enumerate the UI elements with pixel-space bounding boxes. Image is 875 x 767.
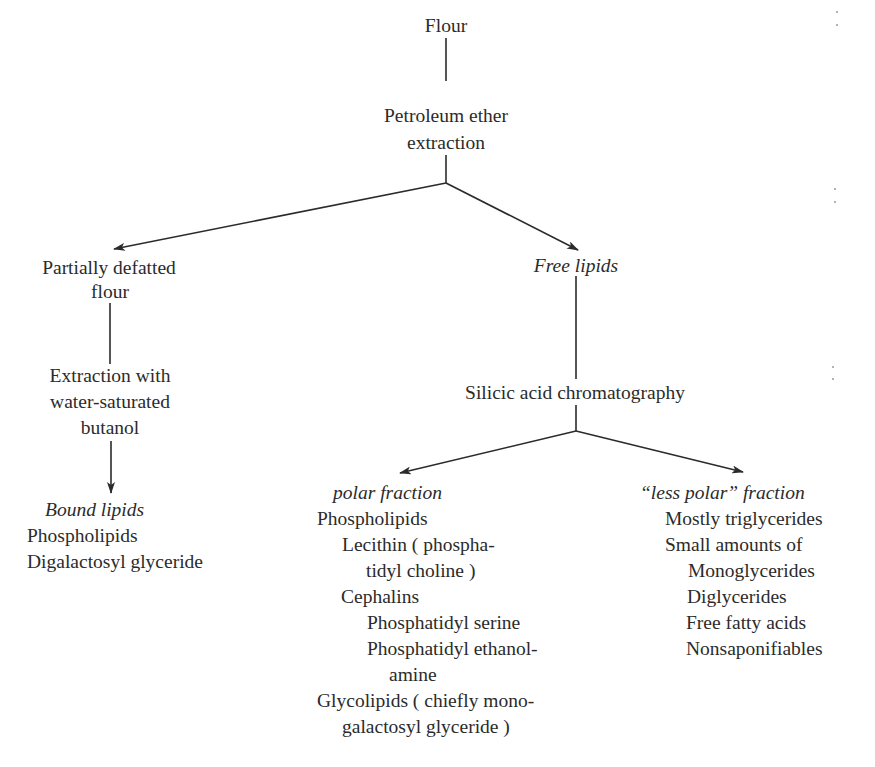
scan-artifact-dot <box>836 11 838 13</box>
polar-fraction-heading: polar fraction <box>317 480 538 506</box>
polar-item: amine <box>317 662 538 688</box>
bound-lipids-item: Digalactosyl glyceride <box>27 549 203 575</box>
polar-item: Phospholipids <box>317 506 538 532</box>
polar-item: Phosphatidyl serine <box>317 610 538 636</box>
arrow-to-defatted-flour <box>114 183 446 249</box>
polar-item: tidyl choline ) <box>317 558 538 584</box>
node-polar-fraction: polar fraction Phospholipids Lecithin ( … <box>317 480 538 740</box>
arrow-to-less-polar-fraction <box>576 431 743 472</box>
bound-lipids-item: Phospholipids <box>27 523 203 549</box>
node-petroleum-ether-line2: extraction <box>407 131 485 155</box>
scan-artifact-dot <box>836 24 838 26</box>
less-polar-item: Small amounts of <box>640 532 823 558</box>
polar-item: Glycolipids ( chiefly mono- <box>317 688 538 714</box>
less-polar-item: Diglycerides <box>640 584 823 610</box>
node-butanol-extraction-line3: butanol <box>81 416 140 440</box>
node-petroleum-ether-line1: Petroleum ether <box>384 104 508 128</box>
node-butanol-extraction-line1: Extraction with <box>50 364 171 388</box>
node-silicic-acid-chromatography: Silicic acid chromatography <box>465 381 685 405</box>
polar-item: galactosyl glyceride ) <box>317 714 538 740</box>
node-bound-lipids: Bound lipids Phospholipids Digalactosyl … <box>27 497 203 575</box>
node-less-polar-fraction: “less polar” fraction Mostly triglycerid… <box>640 480 823 662</box>
less-polar-item: Free fatty acids <box>640 610 823 636</box>
polar-item: Phosphatidyl ethanol- <box>317 636 538 662</box>
node-butanol-extraction-line2: water-saturated <box>50 390 170 414</box>
node-defatted-flour-line2: flour <box>91 280 129 304</box>
scan-artifact-dot <box>834 201 836 203</box>
arrow-to-polar-fraction <box>400 431 576 473</box>
less-polar-item: Monoglycerides <box>640 558 823 584</box>
arrow-to-free-lipids <box>446 183 578 250</box>
node-defatted-flour-line1: Partially defatted <box>42 256 176 280</box>
flour-lipid-flowchart: Flour Petroleum ether extraction Partial… <box>0 0 875 767</box>
scan-artifact-dot <box>832 378 834 380</box>
scan-artifact-dot <box>832 366 834 368</box>
polar-item: Cephalins <box>317 584 538 610</box>
less-polar-item: Mostly triglycerides <box>640 506 823 532</box>
polar-item: Lecithin ( phospha- <box>317 532 538 558</box>
node-flour: Flour <box>425 14 467 38</box>
node-free-lipids: Free lipids <box>534 254 618 278</box>
bound-lipids-heading: Bound lipids <box>27 497 203 523</box>
less-polar-fraction-heading: “less polar” fraction <box>640 480 823 506</box>
less-polar-item: Nonsaponifiables <box>640 636 823 662</box>
scan-artifact-dot <box>834 188 836 190</box>
